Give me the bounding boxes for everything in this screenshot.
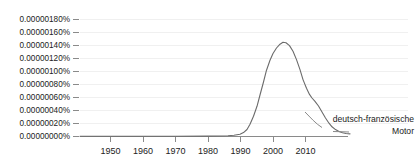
y-tick-label: 0.00000180% — [19, 15, 70, 24]
legend[interactable]: deutsch-französische Motor — [333, 114, 414, 136]
y-axis-tick-dashes — [73, 20, 79, 137]
x-tick-label: 1980 — [198, 146, 218, 156]
legend-label-line1[interactable]: deutsch-französische — [333, 114, 414, 124]
y-tick-label: 0.00000080% — [19, 80, 70, 89]
y-tick-label: 0.00000040% — [19, 106, 70, 115]
gridlines — [80, 20, 408, 124]
x-tick-label: 1970 — [165, 146, 185, 156]
legend-label-line2[interactable]: Motor — [392, 126, 414, 136]
x-axis-labels: 1950 1960 1970 1980 1990 2000 2010 — [100, 146, 315, 156]
y-tick-label: 0.00000120% — [19, 54, 70, 63]
y-tick-label: 0.00000160% — [19, 28, 70, 37]
y-tick-label: 0.00000000% — [19, 132, 70, 141]
x-tick-label: 1950 — [100, 146, 120, 156]
y-axis-labels: 0.00000180% 0.00000160% 0.00000140% 0.00… — [19, 15, 70, 141]
x-tick-label: 1990 — [230, 146, 250, 156]
ngram-chart: 0.00000180% 0.00000160% 0.00000140% 0.00… — [0, 0, 418, 167]
x-axis-tick-marks — [111, 137, 306, 142]
x-tick-label: 1960 — [133, 146, 153, 156]
series-line-deutsch-franzoesische-motor[interactable] — [80, 42, 350, 136]
x-tick-label: 2000 — [263, 146, 283, 156]
legend-leader-line-secondary — [333, 132, 349, 133]
y-tick-label: 0.00000060% — [19, 93, 70, 102]
legend-leader-line — [305, 112, 322, 128]
y-tick-label: 0.00000020% — [19, 119, 70, 128]
y-tick-label: 0.00000140% — [19, 41, 70, 50]
chart-canvas: 0.00000180% 0.00000160% 0.00000140% 0.00… — [0, 0, 418, 167]
x-tick-label: 2010 — [295, 146, 315, 156]
y-tick-label: 0.00000100% — [19, 67, 70, 76]
